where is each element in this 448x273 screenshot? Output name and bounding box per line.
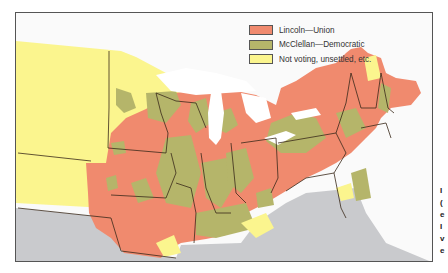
legend-item-lincoln: Lincoln—Union xyxy=(249,23,371,38)
caption-char: I xyxy=(440,221,448,233)
caption-char: v xyxy=(440,233,448,245)
legend-item-not-voting: Not voting, unsettled, etc. xyxy=(249,52,371,67)
lake-superior xyxy=(156,68,256,95)
legend-label-lincoln: Lincoln—Union xyxy=(279,26,335,35)
legend-label-mcclellan: McClellan—Democratic xyxy=(279,40,365,49)
lincoln-swatch xyxy=(249,25,273,35)
caption-char: I xyxy=(440,185,448,197)
legend-label-not-voting: Not voting, unsettled, etc. xyxy=(279,55,371,64)
legend-item-mcclellan: McClellan—Democratic xyxy=(249,38,371,53)
caption-char: e xyxy=(440,209,448,221)
election-map-frame: Lincoln—Union McClellan—Democratic Not v… xyxy=(15,12,433,262)
not-voting-swatch xyxy=(249,54,273,64)
mcclellan-swatch xyxy=(249,40,273,50)
cropped-caption-fragment: I ( e I v e xyxy=(440,185,448,257)
map-legend: Lincoln—Union McClellan—Democratic Not v… xyxy=(249,23,371,67)
caption-char: e xyxy=(440,245,448,257)
caption-char: ( xyxy=(440,197,448,209)
